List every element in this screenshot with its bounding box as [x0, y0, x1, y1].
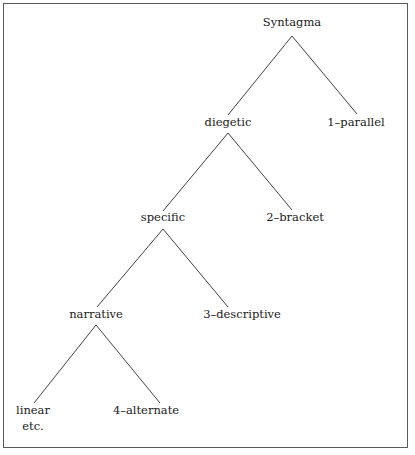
node-label-diegetic: diegetic	[205, 115, 252, 129]
node-label-2-bracket: 2–bracket	[266, 210, 324, 224]
edge-narrative-alternate	[96, 325, 160, 403]
node-label-linear-etc: etc.	[22, 419, 44, 433]
node-label-linear: linear	[16, 403, 50, 417]
edge-narrative-linear	[34, 325, 96, 403]
edge-diegetic-specific	[163, 133, 228, 211]
node-label-1-parallel: 1–parallel	[327, 115, 385, 129]
edge-syntagma-parallel	[292, 36, 357, 114]
tree-node-labels: Syntagma diegetic 1–parallel specific 2–…	[16, 15, 385, 433]
node-label-3-descriptive: 3–descriptive	[203, 307, 281, 321]
edge-specific-narrative	[97, 229, 163, 307]
node-label-specific: specific	[141, 210, 185, 224]
edge-syntagma-diegetic	[228, 36, 292, 115]
edge-specific-descriptive	[163, 229, 228, 307]
tree-diagram: Syntagma diegetic 1–parallel specific 2–…	[0, 0, 415, 455]
node-label-4-alternate: 4–alternate	[113, 403, 179, 417]
node-label-syntagma: Syntagma	[263, 15, 322, 29]
edge-diegetic-bracket	[228, 133, 292, 210]
node-label-narrative: narrative	[69, 307, 123, 321]
